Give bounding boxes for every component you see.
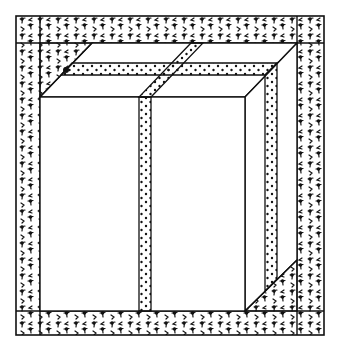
ribbon-side-vertical [265,63,277,291]
gift-box [40,43,297,311]
ribbon-knot [63,67,69,73]
gift-box-illustration [0,0,337,351]
drawing [0,0,337,351]
ribbon-top-horizontal [61,63,277,75]
ribbon-front-vertical [139,97,151,311]
